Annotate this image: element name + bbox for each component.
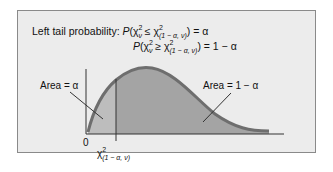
superscript: 2 xyxy=(170,39,174,46)
title-prefix: Left tail probability: xyxy=(32,25,122,37)
ge-chi: ≥ χ xyxy=(152,40,170,52)
title-line-2: P(χ2ν ≥ χ2(1 − α, ν)) = 1 − α xyxy=(133,39,237,55)
equals-alpha: ) = α xyxy=(187,25,209,37)
subscript: (1 − α, ν) xyxy=(102,154,130,162)
chi-square-diagram: Left tail probability: P(χ2ν ≤ χ2(1 − α,… xyxy=(0,0,333,172)
superscript: 2 xyxy=(102,146,106,153)
origin-label: 0 xyxy=(83,137,89,148)
left-tail-area xyxy=(88,80,116,134)
title-line-1: Left tail probability: P(χ2ν ≤ χ2(1 − α,… xyxy=(32,24,208,40)
critical-value-label: χ2(1 − α, ν) xyxy=(97,146,130,162)
left-area-label: Area = α xyxy=(40,80,79,91)
le-chi: ≤ χ xyxy=(142,25,160,37)
prob-symbol: P xyxy=(122,25,129,37)
right-tail-area xyxy=(116,68,269,135)
right-area-label: Area = 1 − α xyxy=(203,80,258,91)
equals-one-minus-alpha: ) = 1 − α xyxy=(197,40,236,52)
superscript: 2 xyxy=(159,24,163,31)
prob-symbol: P xyxy=(133,40,140,52)
subscript: (1 − α, ν) xyxy=(169,47,197,55)
